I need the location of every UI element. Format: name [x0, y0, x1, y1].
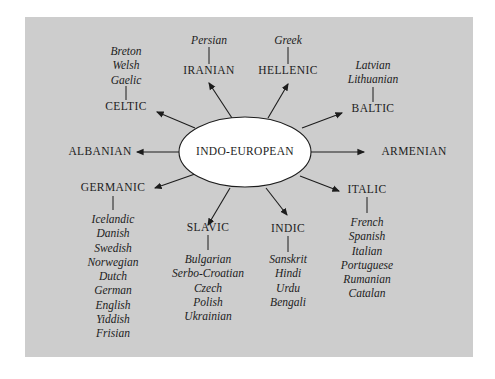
language-item: Bengali: [269, 295, 307, 309]
branch-albanian: ALBANIAN: [68, 145, 131, 157]
branch-hellenic: HELLENIC: [258, 64, 317, 76]
slavic-languages: Bulgarian Serbo-Croatian Czech Polish Uk…: [172, 252, 244, 323]
branch-celtic: CELTIC: [105, 100, 147, 112]
language-item: Frisian: [87, 326, 138, 340]
language-item: Rumanian: [341, 272, 393, 286]
language-item: Greek: [274, 33, 302, 47]
language-item: Welsh: [111, 58, 142, 72]
celtic-languages: Breton Welsh Gaelic: [111, 44, 142, 87]
branch-germanic: GERMANIC: [81, 181, 146, 193]
language-item: Portuguese: [341, 258, 393, 272]
language-item: English: [87, 298, 138, 312]
baltic-languages: Latvian Lithuanian: [348, 58, 398, 87]
language-item: Dutch: [87, 269, 138, 283]
language-item: Gaelic: [111, 73, 142, 87]
hellenic-languages: Greek: [274, 33, 302, 47]
italic-languages: French Spanish Italian Portuguese Rumani…: [341, 215, 393, 301]
branch-slavic: SLAVIC: [187, 221, 229, 233]
branch-indic: INDIC: [271, 222, 305, 234]
language-item: Czech: [172, 281, 244, 295]
branch-baltic: BALTIC: [352, 102, 395, 114]
language-item: Yiddish: [87, 312, 138, 326]
branch-italic: ITALIC: [347, 183, 386, 195]
language-item: French: [341, 215, 393, 229]
language-item: Spanish: [341, 229, 393, 243]
language-item: Danish: [87, 226, 138, 240]
language-item: Polish: [172, 295, 244, 309]
language-item: Urdu: [269, 281, 307, 295]
language-item: Persian: [191, 33, 227, 47]
indic-languages: Sanskrit Hindi Urdu Bengali: [269, 252, 307, 309]
language-item: Icelandic: [87, 212, 138, 226]
language-item: Breton: [111, 44, 142, 58]
language-item: Swedish: [87, 241, 138, 255]
language-item: Bulgarian: [172, 252, 244, 266]
language-item: Italian: [341, 244, 393, 258]
iranian-languages: Persian: [191, 33, 227, 47]
language-item: Catalan: [341, 286, 393, 300]
language-item: Latvian: [348, 58, 398, 72]
language-item: Norwegian: [87, 255, 138, 269]
branch-armenian: ARMENIAN: [381, 145, 446, 157]
branch-iranian: IRANIAN: [183, 64, 234, 76]
language-item: Lithuanian: [348, 72, 398, 86]
root-node-label: INDO-EUROPEAN: [196, 145, 294, 157]
language-item: Ukrainian: [172, 309, 244, 323]
connector-arrows: [0, 0, 495, 379]
germanic-languages: Icelandic Danish Swedish Norwegian Dutch…: [87, 212, 138, 341]
language-item: Sanskrit: [269, 252, 307, 266]
language-item: German: [87, 283, 138, 297]
language-item: Serbo-Croatian: [172, 266, 244, 280]
language-item: Hindi: [269, 266, 307, 280]
